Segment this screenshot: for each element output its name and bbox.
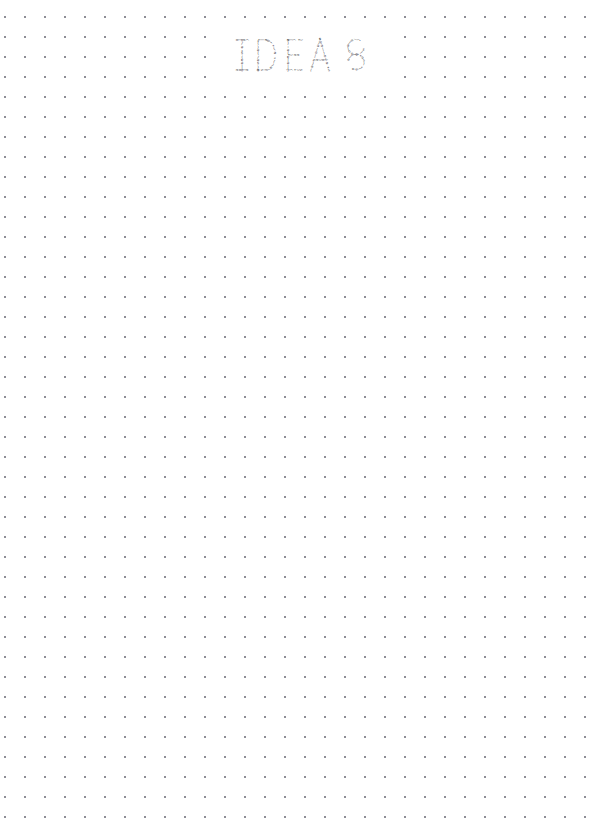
notebook-page: o|e(o/e*s)ae|oeo|e*)(e)/es(o*|e/a(*)e*)(…: [0, 0, 592, 818]
ideas-wordart: o|e(o/e*s)ae|oeo|e*)(e)/es(o*|e/a(*)e*)(…: [224, 34, 384, 90]
svg-text:e: e: [296, 54, 301, 57]
svg-text:(: (: [356, 38, 362, 42]
svg-text:): ): [309, 68, 313, 73]
svg-text:s: s: [299, 69, 304, 71]
svg-text:s: s: [327, 68, 331, 73]
svg-text:(: (: [245, 39, 250, 41]
svg-text:|: |: [324, 59, 329, 61]
dot-grid-background: [0, 0, 592, 818]
svg-text:(: (: [264, 69, 269, 71]
svg-text:e: e: [245, 69, 250, 72]
svg-text:): ): [299, 39, 304, 41]
svg-text:o: o: [350, 66, 356, 71]
